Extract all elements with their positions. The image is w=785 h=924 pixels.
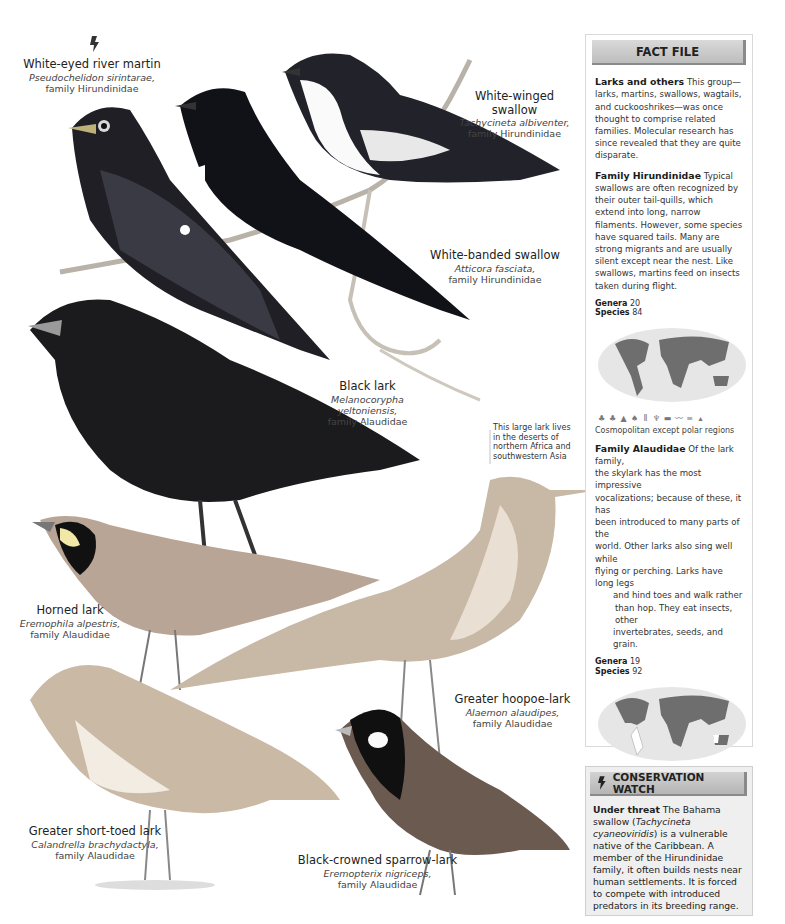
species-family: family Alaudidae <box>20 850 170 861</box>
species-name: Black-crowned sparrow-lark <box>290 854 465 868</box>
hirundinidae-distribution: Cosmopolitan except polar regions <box>595 426 744 436</box>
species-name: Horned lark <box>10 604 130 618</box>
species-scientific-name: Melanocorypha yeltoniensis, <box>300 394 435 416</box>
woodland-icon: ♣ <box>608 414 617 423</box>
species-family: family Alaudidae <box>10 629 130 640</box>
species-name: Greater hoopoe-lark <box>450 693 575 707</box>
shrub-icon: ♠ <box>630 414 639 423</box>
hirundinidae-stats: Genera 20 Species 84 <box>595 299 744 318</box>
wetland-icon: ♆ <box>652 414 661 423</box>
hirundinidae-habitat-icons: ♣♣▲♠Ⅱ♆▬〰≡▴ <box>597 414 744 423</box>
caption-black-crowned-sparrow-lark: Black-crowned sparrow-lark Eremopterix n… <box>290 854 465 890</box>
species-name: Black lark <box>300 380 435 394</box>
mountain-icon: ▴ <box>696 414 705 423</box>
species-scientific-name: Eremophila alpestris, <box>10 618 130 629</box>
urban-icon: ▬ <box>663 414 672 423</box>
species-family: family Hirundinidae <box>430 274 560 285</box>
grassland-icon: Ⅱ <box>641 414 650 423</box>
species-name: White-eyed river martin <box>8 58 176 72</box>
species-family: family Hirundinidae <box>8 83 176 94</box>
species-family: family Alaudidae <box>290 879 465 890</box>
conservation-watch-title: CONSERVATION WATCH <box>590 772 747 796</box>
species-family: family Alaudidae <box>300 416 435 427</box>
species-family: family Hirundinidae <box>452 128 577 139</box>
alaudidae-distribution-map <box>597 685 747 763</box>
hirundinidae-distribution-map <box>597 326 747 404</box>
species-scientific-name: Atticora fasciata, <box>430 263 560 274</box>
caption-black-lark: Black lark Melanocorypha yeltoniensis, f… <box>300 380 435 427</box>
species-scientific-name: Eremopterix nigriceps, <box>290 868 465 879</box>
conservation-watch-panel: CONSERVATION WATCH Under threat The Baha… <box>585 766 753 916</box>
black-lark-illustration <box>28 299 420 555</box>
caption-greater-hoopoe-lark: Greater hoopoe-lark Alaemon alaudipes, f… <box>450 693 575 729</box>
farmland-icon: 〰 <box>674 414 683 423</box>
forest-icon: ♣ <box>597 414 606 423</box>
black-lark-note: This large lark lives in the deserts of … <box>493 423 583 461</box>
fact-file-title: FACT FILE <box>592 40 746 65</box>
hirundinidae-paragraph: Family Hirundinidae Typical swallows are… <box>595 169 744 292</box>
species-scientific-name: Calandrella brachydactyla, <box>20 839 170 850</box>
caption-greater-short-toed-lark: Greater short-toed lark Calandrella brac… <box>20 825 170 861</box>
alaudidae-paragraph: Family Alaudidae Of the lark family, the… <box>595 442 744 651</box>
alaudidae-stats: Genera 19 Species 92 <box>595 657 744 676</box>
conservation-text: Under threat The Bahama swallow (Tachyci… <box>586 796 752 912</box>
species-name: Greater short-toed lark <box>20 825 170 839</box>
caption-white-winged-swallow: White-winged swallow Tachycineta albiven… <box>452 90 577 140</box>
threatened-species-icon <box>90 36 99 52</box>
caption-horned-lark: Horned lark Eremophila alpestris, family… <box>10 604 130 640</box>
species-name: White-banded swallow <box>430 249 560 263</box>
caption-white-banded-swallow: White-banded swallow Atticora fasciata, … <box>430 249 560 285</box>
species-name: White-winged swallow <box>452 90 577 117</box>
intro-paragraph: Larks and others This group—larks, marti… <box>595 75 744 162</box>
species-family: family Alaudidae <box>450 718 575 729</box>
caption-white-eyed-river-martin: White-eyed river martin Pseudochelidon s… <box>8 58 176 94</box>
water-icon: ≡ <box>685 414 694 423</box>
threat-icon <box>598 776 606 790</box>
fact-file-panel: FACT FILE Larks and others This group—la… <box>585 34 753 747</box>
species-scientific-name: Tachycineta albiventer, <box>452 117 577 128</box>
conifer-icon: ▲ <box>619 414 628 423</box>
species-scientific-name: Pseudochelidon sirintarae, <box>8 72 176 83</box>
species-scientific-name: Alaemon alaudipes, <box>450 707 575 718</box>
